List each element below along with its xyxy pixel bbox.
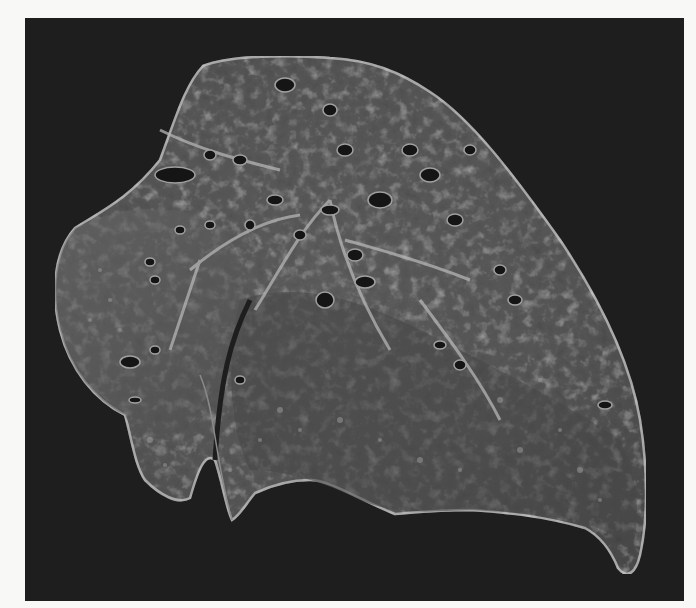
- lung-specimen: [0, 0, 696, 608]
- photo-border: [0, 0, 696, 608]
